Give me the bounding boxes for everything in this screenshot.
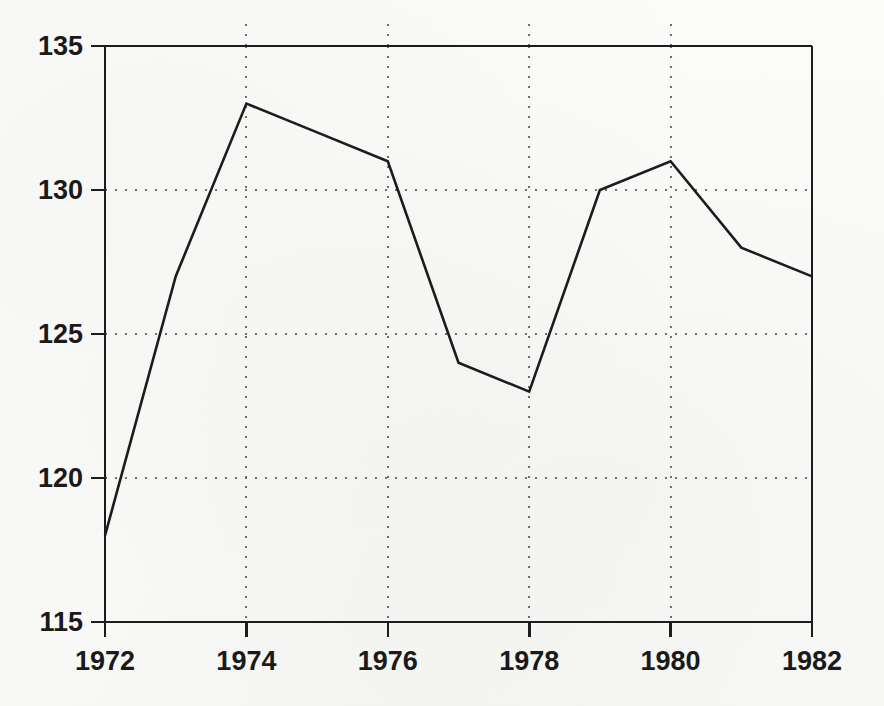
y-axis-tick-labels: 135130125120115 xyxy=(38,31,83,637)
x-tick-label-1980: 1980 xyxy=(641,646,701,676)
x-axis-tick-labels: 197219741976197819801982 xyxy=(75,646,842,676)
data-series-line xyxy=(105,104,812,536)
y-tick-label-135: 135 xyxy=(38,31,83,61)
x-tick-label-1978: 1978 xyxy=(499,646,559,676)
x-axis-tick-marks xyxy=(105,621,812,637)
vertical-gridlines xyxy=(246,24,670,622)
y-tick-label-115: 115 xyxy=(39,607,83,637)
x-tick-label-1976: 1976 xyxy=(358,646,418,676)
chart-plot-area: 135130125120115 197219741976197819801982 xyxy=(0,0,884,706)
x-tick-label-1972: 1972 xyxy=(75,646,135,676)
y-tick-label-125: 125 xyxy=(38,319,83,349)
x-tick-label-1974: 1974 xyxy=(216,646,276,676)
line-chart: 135130125120115 197219741976197819801982 xyxy=(0,0,884,706)
horizontal-gridlines xyxy=(105,190,812,478)
y-tick-label-130: 130 xyxy=(38,175,83,205)
y-tick-label-120: 120 xyxy=(38,463,83,493)
x-tick-label-1982: 1982 xyxy=(782,646,842,676)
